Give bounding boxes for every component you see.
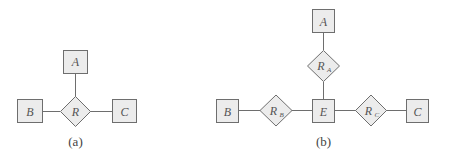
entity-c: C	[407, 100, 429, 123]
relationship-ra: R A	[308, 51, 340, 82]
entity-a: A	[64, 51, 88, 74]
entity-label: C	[120, 105, 129, 119]
entity-label: B	[224, 105, 232, 119]
entity-b: B	[18, 100, 43, 123]
entity-label: E	[319, 105, 328, 119]
relationship-label: R	[71, 105, 80, 119]
relationship-rc: R C	[356, 95, 387, 126]
diagram-a: A B C R (a)	[18, 51, 137, 150]
relationship-subscript: C	[375, 111, 380, 119]
entity-label: A	[319, 15, 328, 29]
diagram-b: A B E C R A R B R C (b)	[217, 10, 429, 150]
entity-c: C	[113, 100, 137, 123]
caption-b: (b)	[316, 134, 331, 149]
entity-b: B	[217, 100, 239, 123]
entity-a: A	[313, 10, 335, 33]
relationship-label: R	[269, 104, 278, 118]
entity-label: B	[26, 105, 34, 119]
entity-label: C	[413, 105, 422, 119]
er-diagram-figure: A B C R (a) A B E	[0, 0, 449, 162]
relationship-label: R	[316, 59, 325, 73]
relationship-label: R	[364, 104, 373, 118]
entity-label: A	[71, 55, 80, 69]
entity-e: E	[313, 100, 335, 123]
relationship-subscript: A	[326, 66, 332, 74]
caption-a: (a)	[68, 134, 82, 149]
relationship-r: R	[61, 97, 91, 127]
relationship-rb: R B	[260, 95, 292, 126]
relationship-subscript: B	[280, 111, 285, 119]
